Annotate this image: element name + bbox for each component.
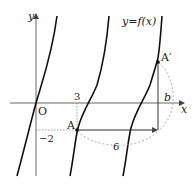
point-a-label: A (66, 119, 76, 132)
horizontal-shift-label: 6 (113, 141, 119, 152)
function-graph: y x O 3 −2 A A′ b 6 y=f(x) (0, 0, 193, 187)
origin-label: O (38, 105, 47, 118)
tick-y-neg2-label: −2 (39, 133, 54, 144)
y-axis-label: y (27, 10, 35, 23)
x-axis-label: x (181, 103, 188, 116)
curve-branch-3 (123, 16, 162, 176)
point-a (75, 128, 79, 132)
curve-label: y=f(x) (121, 15, 156, 28)
point-a-prime-label: A′ (160, 51, 172, 64)
point-a-prime (156, 60, 160, 64)
curve-branch-1 (17, 16, 57, 176)
tick-x-3-label: 3 (74, 91, 80, 102)
vertical-shift-label: b (164, 91, 171, 104)
